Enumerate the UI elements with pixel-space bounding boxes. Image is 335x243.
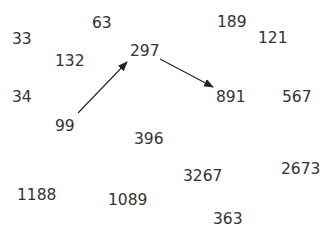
number-diagram: 33 63 189 121 132 297 34 891 567 99 396 … <box>0 0 335 243</box>
arrows-layer <box>0 0 335 243</box>
arrow-297-to-891 <box>160 59 213 87</box>
arrow-99-to-297 <box>78 62 127 113</box>
